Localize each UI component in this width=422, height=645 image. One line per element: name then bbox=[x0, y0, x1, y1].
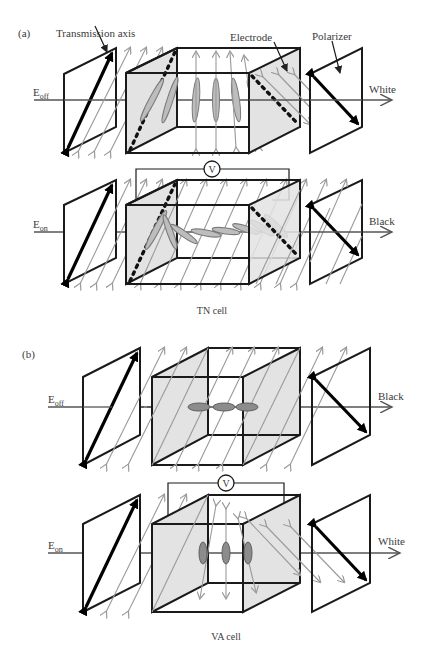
va-cell-on-row: V bbox=[48, 475, 400, 612]
panel-b-label: (b) bbox=[22, 348, 35, 361]
electrode-label: Electrode bbox=[230, 31, 272, 43]
svg-text:V: V bbox=[208, 164, 216, 175]
svg-text:V: V bbox=[222, 478, 230, 489]
output-label-a-on: Black bbox=[369, 215, 395, 227]
output-label-a-off: White bbox=[369, 83, 396, 95]
liquid-crystal-molecules bbox=[188, 403, 258, 411]
transmission-axis-label: Transmission axis bbox=[56, 27, 135, 39]
tn-cell-off-row bbox=[34, 26, 392, 153]
field-label-a-on: Eon bbox=[33, 218, 48, 233]
tn-cell-on-row: V bbox=[34, 161, 392, 284]
polarizer-label: Polarizer bbox=[312, 30, 352, 42]
output-label-b-on: White bbox=[378, 535, 405, 547]
panel-a-label: (a) bbox=[18, 27, 31, 40]
field-label-b-on: Eon bbox=[48, 539, 63, 554]
field-label-a-off: Eoff bbox=[33, 86, 49, 101]
caption-tn-cell: TN cell bbox=[197, 305, 227, 316]
output-label-b-off: Black bbox=[378, 390, 404, 402]
va-cell-off-row bbox=[48, 348, 392, 465]
field-label-b-off: Eoff bbox=[48, 393, 64, 408]
lcd-diagram: (a) Transmission axis Electrode Polarize… bbox=[0, 0, 422, 645]
caption-va-cell: VA cell bbox=[211, 631, 241, 642]
